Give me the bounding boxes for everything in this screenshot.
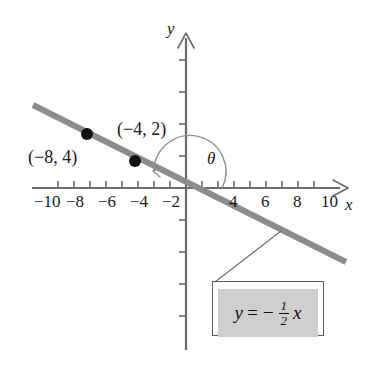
point-label-neg8-4: (−8, 4) (28, 148, 77, 166)
equation-callout-box: y = − 1 2 x (218, 289, 318, 337)
fraction-numerator: 1 (279, 299, 290, 313)
equation-equals: = (246, 302, 259, 324)
x-tick-label-neg6: −6 (98, 193, 116, 210)
point-neg8-4 (81, 128, 93, 140)
x-tick-label-pos8: 8 (293, 193, 302, 210)
graph-figure: −10 −8 −6 −4 −2 4 6 8 10 x y (−8, 4) (−4… (0, 0, 370, 365)
x-tick-label-neg2: −2 (162, 193, 180, 210)
x-tick-label-pos4: 4 (229, 193, 238, 210)
equation-text: y = − 1 2 x (234, 299, 301, 327)
y-axis-label: y (167, 20, 175, 37)
x-tick-label-neg8: −8 (66, 193, 84, 210)
plotted-line (33, 105, 346, 262)
y-axis (178, 33, 194, 350)
point-label-neg4-2: (−4, 2) (117, 120, 166, 138)
callout-leader-line (215, 231, 281, 282)
x-tick-label-neg4: −4 (130, 193, 148, 210)
x-tick-label-neg10: −10 (34, 193, 61, 210)
x-axis-label: x (345, 196, 353, 213)
x-tick-label-pos6: 6 (261, 193, 270, 210)
point-neg4-2 (129, 155, 141, 167)
equation-variable: x (293, 302, 301, 324)
x-tick-label-pos10: 10 (321, 193, 338, 210)
fraction-denominator: 2 (279, 314, 290, 328)
equation-lhs: y (234, 302, 242, 324)
equation-minus: − (262, 302, 275, 324)
equation-fraction: 1 2 (279, 299, 290, 327)
angle-theta-label: θ (207, 150, 215, 167)
